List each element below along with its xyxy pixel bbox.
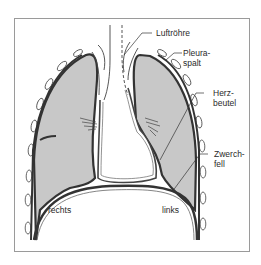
label-links: links (162, 205, 179, 215)
trachea (92, 25, 138, 100)
label-herzbeutel-2: beutel (213, 98, 236, 108)
label-zwerchfell-1: Zwerch- (214, 149, 245, 159)
label-pleuraspalt-1: Pleura- (183, 48, 211, 58)
thorax-diagram: Luftröhre Pleura- spalt Herz- beutel Zwe… (0, 0, 261, 265)
label-pleuraspalt-2: spalt (183, 58, 202, 68)
label-herzbeutel-1: Herz- (213, 88, 234, 98)
label-rechts: rechts (48, 205, 71, 215)
label-luftroehre: Luftröhre (156, 28, 190, 38)
label-zwerchfell-2: fell (214, 159, 225, 169)
